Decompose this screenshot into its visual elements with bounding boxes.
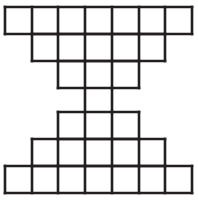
hourglass-grid-figure [0, 0, 198, 200]
figure-canvas [0, 0, 198, 200]
figure-background [0, 0, 198, 200]
